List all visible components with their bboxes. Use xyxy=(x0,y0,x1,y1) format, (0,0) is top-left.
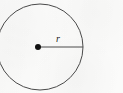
radius-label: r xyxy=(56,33,60,44)
geometry-diagram-svg: r xyxy=(0,0,123,93)
center-point-dot xyxy=(35,44,41,50)
circle-radius-figure: r xyxy=(0,0,123,93)
